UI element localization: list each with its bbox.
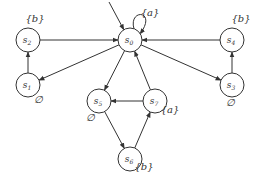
- state-label: ∅: [86, 112, 96, 123]
- state-label: ∅: [226, 97, 236, 108]
- edge-s7-s0: [135, 51, 151, 90]
- state-node-s0: s0{a}: [118, 7, 159, 52]
- initial-arrow: [109, 2, 124, 30]
- edge-s6-s7: [135, 112, 151, 148]
- state-node-s3: s3∅: [220, 73, 244, 108]
- state-label: {b}: [134, 161, 153, 172]
- state-node-s4: s4{b}: [220, 13, 251, 52]
- edge-s5-s6: [105, 112, 125, 149]
- state-node-s2: s2{b}: [16, 13, 45, 52]
- state-label: {b}: [231, 13, 250, 24]
- state-label: {a}: [161, 104, 180, 115]
- edge-s0-s3: [141, 45, 221, 80]
- state-node-s5: s5∅: [86, 89, 112, 123]
- state-diagram: s0{a}s1∅s2{b}s3∅s4{b}s5∅s6{b}s7{a}: [0, 0, 264, 184]
- edges: [28, 2, 232, 148]
- edge-s0-s1: [39, 45, 119, 80]
- state-label: {a}: [141, 7, 160, 18]
- state-label: ∅: [34, 94, 44, 105]
- edge-s0-s5: [104, 51, 124, 91]
- state-node-s7: s7{a}: [143, 89, 179, 115]
- state-label: {b}: [25, 13, 44, 24]
- state-node-s6: s6{b}: [118, 147, 154, 172]
- nodes: s0{a}s1∅s2{b}s3∅s4{b}s5∅s6{b}s7{a}: [16, 7, 251, 172]
- state-node-s1: s1∅: [16, 73, 44, 105]
